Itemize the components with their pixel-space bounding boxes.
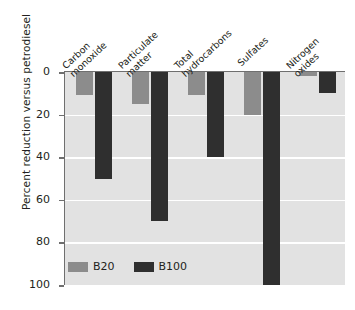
category-label: Sulfates	[236, 35, 271, 69]
bar-b100-sulfates	[263, 72, 280, 285]
legend-item-b100: B100	[134, 260, 188, 273]
bar-b100-particulate-matter	[151, 72, 168, 221]
y-tick-label: 60	[10, 193, 50, 206]
y-tick-label: 80	[10, 235, 50, 248]
bar-b100-carbon-monoxide	[95, 72, 112, 179]
y-tick-label: 0	[10, 65, 50, 78]
gridline	[65, 242, 345, 244]
legend-swatch-b20	[68, 262, 88, 272]
y-tick-label: 40	[10, 150, 50, 163]
legend-swatch-b100	[134, 262, 154, 272]
bar-b20-particulate-matter	[132, 72, 149, 104]
y-tick-mark	[59, 285, 64, 287]
y-tick-label: 20	[10, 108, 50, 121]
category-label-line: Sulfates	[236, 35, 271, 69]
bar-b20-sulfates	[244, 72, 261, 115]
plot-area	[64, 72, 345, 285]
legend: B20B100	[68, 260, 187, 273]
bar-b100-nitrogen-oxides	[319, 72, 336, 93]
gridline	[65, 285, 345, 287]
legend-label: B20	[93, 260, 115, 273]
gridline	[65, 200, 345, 202]
legend-label: B100	[159, 260, 188, 273]
bar-b100-total-hydrocarbons	[207, 72, 224, 157]
legend-item-b20: B20	[68, 260, 115, 273]
y-tick-label: 100	[10, 278, 50, 291]
bar-chart: Percent reduction versus petrodiesel 020…	[0, 0, 355, 310]
